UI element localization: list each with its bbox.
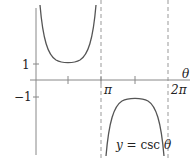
x-tick-label-2pi: 2π: [170, 83, 188, 97]
x-tick-label-pi: π: [103, 83, 113, 97]
x-axis-label-theta: θ: [182, 67, 190, 81]
y-tick-label-neg1: −1: [14, 90, 32, 104]
csc-curve-positive: [40, 5, 96, 63]
csc-graph: 1 −1 π 2π θ y = csc θ: [0, 0, 196, 159]
y-tick-label-1: 1: [22, 58, 30, 72]
function-label: y = csc θ: [115, 138, 172, 152]
